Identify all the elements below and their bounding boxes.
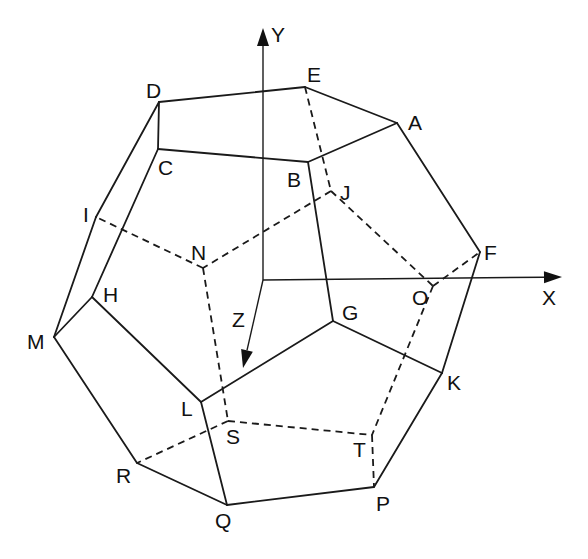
edge-AF: [397, 123, 480, 252]
edge-GL: [201, 321, 333, 402]
edge-DI: [96, 102, 159, 217]
z-axis-arrow-icon: [241, 349, 253, 368]
hidden-edge-EJ: [305, 87, 331, 191]
edge-IM: [54, 217, 96, 337]
hidden-edge-ST: [228, 421, 372, 435]
edge-HL: [92, 297, 201, 402]
vertex-label-N: N: [191, 241, 206, 264]
vertex-label-K: K: [447, 371, 461, 394]
axes: [241, 28, 562, 368]
hidden-edge-OF: [433, 252, 480, 286]
y-axis-label: Y: [271, 23, 285, 46]
z-axis-line: [247, 280, 263, 350]
edge-BC: [158, 149, 308, 162]
vertex-label-E: E: [307, 63, 321, 86]
vertex-label-S: S: [226, 425, 240, 448]
vertex-label-R: R: [116, 464, 131, 487]
edge-MR: [54, 337, 137, 463]
hidden-edge-TP: [372, 435, 374, 487]
z-axis-label: Z: [232, 308, 245, 331]
vertex-label-M: M: [27, 330, 45, 353]
x-axis-line: [263, 277, 544, 280]
edge-DE: [159, 87, 305, 102]
edge-CH: [92, 149, 158, 297]
edge-FK: [442, 252, 480, 373]
vertex-label-Q: Q: [215, 509, 231, 532]
vertex-label-C: C: [158, 156, 173, 179]
hidden-edge-NI: [96, 217, 203, 268]
edge-EA: [305, 87, 397, 123]
y-axis-arrow-icon: [257, 28, 269, 46]
vertex-label-L: L: [181, 397, 193, 420]
dodecahedron-diagram: XYZABCDEFGHIJKLMNOPQRST: [0, 0, 588, 559]
x-axis-label: X: [542, 286, 556, 309]
vertex-label-G: G: [342, 301, 358, 324]
vertex-label-H: H: [103, 283, 118, 306]
edge-GK: [333, 321, 442, 373]
hidden-edge-JN: [203, 191, 331, 268]
vertex-label-D: D: [146, 79, 161, 102]
hidden-edge-JO: [331, 191, 433, 286]
edge-AB: [308, 123, 397, 162]
edge-RQ: [137, 463, 227, 505]
vertex-label-J: J: [340, 181, 351, 204]
edge-QP: [227, 487, 374, 505]
vertex-label-O: O: [412, 286, 428, 309]
edge-LQ: [201, 402, 227, 505]
vertex-label-P: P: [376, 492, 390, 515]
x-axis-arrow-icon: [544, 271, 562, 283]
vertex-label-F: F: [484, 241, 497, 264]
edge-CD: [158, 102, 159, 149]
vertex-label-A: A: [408, 111, 422, 134]
edge-PK: [374, 373, 442, 487]
vertex-label-B: B: [287, 168, 301, 191]
edge-HM: [54, 297, 92, 337]
vertex-label-I: I: [83, 203, 89, 226]
vertex-label-T: T: [353, 438, 366, 461]
